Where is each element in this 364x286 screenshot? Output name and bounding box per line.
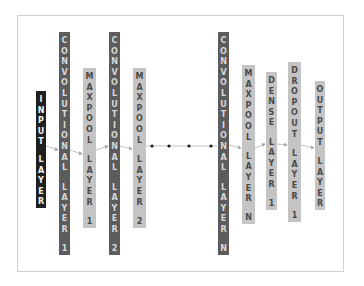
layer-label-char: A (218, 153, 229, 164)
layer-label-char: P (288, 98, 301, 109)
layer-conv1: CONVOLUTIONALLAYER1 (59, 32, 70, 255)
layer-label-char: O (288, 87, 301, 98)
layer-label-char: L (242, 133, 255, 144)
layer-label-char: T (218, 110, 229, 121)
layer-label-char: U (59, 100, 70, 111)
layer-label-char: T (36, 137, 46, 148)
layer-label-char: N (59, 57, 70, 68)
layer-label-char: E (133, 187, 146, 198)
layer-label-char: A (242, 162, 255, 173)
layer-label-char: U (315, 127, 325, 138)
layer-label-char: T (315, 106, 325, 117)
layer-label-char: M (83, 72, 96, 83)
layer-label-char: L (266, 138, 277, 149)
layer-label-char: L (315, 157, 325, 168)
layer-label-char: O (218, 47, 229, 58)
layer-label-char: A (83, 166, 96, 177)
layer-label-char: O (59, 131, 70, 142)
layer-label-char: L (218, 163, 229, 174)
layer-label-char: O (109, 131, 120, 142)
layer-label-char: O (133, 125, 146, 136)
layer-label-char: T (315, 138, 325, 149)
layer-label-char: X (133, 93, 146, 104)
layer-label-char: X (242, 90, 255, 101)
layer-label-char: 1 (266, 199, 277, 210)
layer-label-char: E (109, 214, 120, 225)
layer-label-char: A (133, 166, 146, 177)
layer-label-char: 2 (109, 244, 120, 255)
layer-label-char: R (36, 197, 46, 208)
layer-label-char: A (218, 193, 229, 204)
layer-label-char: N (266, 97, 277, 108)
layer-label-char: R (315, 199, 325, 210)
layer-label-char: Y (109, 204, 120, 215)
layer-label-char: E (83, 187, 96, 198)
layer-label-char: C (218, 36, 229, 47)
layer-label-char: O (242, 111, 255, 122)
layer-label-char: 1 (83, 217, 96, 228)
layer-conv2: CONVOLUTIONALLAYER2 (109, 32, 120, 255)
layer-maxpool2: MAXPOOLLAYER2 (133, 68, 146, 228)
layer-label-char: N (218, 57, 229, 68)
layer-label-char: L (83, 136, 96, 147)
layer-label-char: E (315, 189, 325, 200)
layer-label-char: L (109, 183, 120, 194)
layer-label-char: R (266, 180, 277, 191)
layer-label-char: E (266, 169, 277, 180)
layer-label-char: N (242, 213, 255, 224)
layer-label-char: N (36, 106, 46, 117)
layer-label-char: N (109, 57, 120, 68)
layer-label-char: E (218, 214, 229, 225)
layer-dropout1: DROPOUTLAYER1 (288, 62, 301, 222)
layer-label-char: O (218, 131, 229, 142)
layer-label-char: 1 (288, 211, 301, 222)
layer-maxpool1: MAXPOOLLAYER1 (83, 68, 96, 228)
layer-label-char: O (218, 78, 229, 89)
layer-label-char: A (59, 193, 70, 204)
layer-label-char: A (315, 168, 325, 179)
layer-label-char: D (266, 76, 277, 87)
layer-label-char: N (218, 142, 229, 153)
layer-label-char: E (242, 184, 255, 195)
layer-label-char: O (59, 47, 70, 58)
layer-label-char: A (133, 83, 146, 94)
layer-label-char: P (242, 101, 255, 112)
layer-label-char: R (59, 225, 70, 236)
layer-label-char: A (266, 148, 277, 159)
layer-label-char: S (266, 108, 277, 119)
layer-label-char: L (59, 89, 70, 100)
layer-label-char: Y (133, 176, 146, 187)
layer-label-char: O (59, 78, 70, 89)
layer-label-char: U (36, 127, 46, 138)
layer-label-char: O (288, 108, 301, 119)
layer-label-char: Y (218, 204, 229, 215)
layer-label-char: Y (83, 176, 96, 187)
layer-label-char: O (109, 47, 120, 58)
layer-label-char: P (133, 104, 146, 115)
layer-label-char: P (83, 104, 96, 115)
layer-label-char: E (288, 181, 301, 192)
layer-label-char: Y (315, 178, 325, 189)
layer-label-char: L (83, 155, 96, 166)
layer-label-char: L (133, 155, 146, 166)
layer-label-char: M (133, 72, 146, 83)
layer-output: OUTPUTLAYER (315, 81, 325, 210)
layer-label-char: L (36, 155, 46, 166)
layer-label-char: O (83, 125, 96, 136)
layer-label-char: L (109, 89, 120, 100)
layer-label-char: V (59, 68, 70, 79)
layer-dense1: DENSELAYER1 (266, 72, 277, 210)
layer-label-char: I (59, 121, 70, 132)
layer-label-char: L (218, 183, 229, 194)
layer-label-char: 2 (133, 217, 146, 228)
layer-label-char: E (59, 214, 70, 225)
layer-label-char: T (288, 130, 301, 141)
layer-label-char: R (288, 77, 301, 88)
layer-label-char: L (59, 163, 70, 174)
layer-label-char: N (218, 244, 229, 255)
layer-label-char: L (242, 152, 255, 163)
layer-label-char: O (109, 78, 120, 89)
layer-label-char: Y (59, 204, 70, 215)
layer-label-char: U (109, 100, 120, 111)
layer-label-char: A (83, 83, 96, 94)
